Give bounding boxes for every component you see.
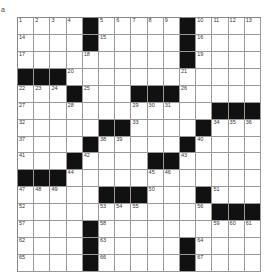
grid-cell[interactable] bbox=[212, 238, 228, 255]
grid-cell[interactable]: 8 bbox=[148, 18, 164, 35]
grid-cell[interactable] bbox=[115, 170, 131, 187]
grid-cell[interactable] bbox=[115, 35, 131, 52]
grid-cell[interactable] bbox=[34, 120, 50, 137]
grid-cell[interactable]: 7 bbox=[131, 18, 147, 35]
grid-cell[interactable] bbox=[229, 35, 245, 52]
grid-cell[interactable]: 61 bbox=[245, 221, 261, 238]
grid-cell[interactable] bbox=[245, 170, 261, 187]
grid-cell[interactable]: 67 bbox=[196, 255, 212, 272]
grid-cell[interactable] bbox=[99, 86, 115, 103]
grid-cell[interactable] bbox=[164, 255, 180, 272]
grid-cell[interactable] bbox=[180, 221, 196, 238]
grid-cell[interactable] bbox=[131, 255, 147, 272]
grid-cell[interactable]: 27 bbox=[18, 103, 34, 120]
grid-cell[interactable]: 2 bbox=[34, 18, 50, 35]
grid-cell[interactable]: 56 bbox=[196, 204, 212, 221]
grid-cell[interactable]: 45 bbox=[148, 170, 164, 187]
grid-cell[interactable] bbox=[67, 52, 83, 69]
grid-cell[interactable] bbox=[67, 204, 83, 221]
grid-cell[interactable] bbox=[148, 238, 164, 255]
grid-cell[interactable] bbox=[83, 103, 99, 120]
grid-cell[interactable] bbox=[99, 103, 115, 120]
grid-cell[interactable] bbox=[229, 238, 245, 255]
grid-cell[interactable]: 63 bbox=[99, 238, 115, 255]
grid-cell[interactable] bbox=[115, 153, 131, 170]
grid-cell[interactable] bbox=[131, 153, 147, 170]
grid-cell[interactable] bbox=[115, 86, 131, 103]
grid-cell[interactable]: 58 bbox=[99, 221, 115, 238]
grid-cell[interactable] bbox=[67, 137, 83, 154]
grid-cell[interactable] bbox=[164, 120, 180, 137]
grid-cell[interactable]: 21 bbox=[180, 69, 196, 86]
grid-cell[interactable] bbox=[180, 120, 196, 137]
grid-cell[interactable] bbox=[148, 52, 164, 69]
grid-cell[interactable] bbox=[67, 120, 83, 137]
grid-cell[interactable]: 54 bbox=[115, 204, 131, 221]
grid-cell[interactable]: 38 bbox=[99, 137, 115, 154]
grid-cell[interactable] bbox=[196, 69, 212, 86]
grid-cell[interactable] bbox=[67, 238, 83, 255]
grid-cell[interactable]: 10 bbox=[196, 18, 212, 35]
grid-cell[interactable] bbox=[131, 238, 147, 255]
grid-cell[interactable] bbox=[164, 221, 180, 238]
grid-cell[interactable]: 48 bbox=[34, 187, 50, 204]
grid-cell[interactable] bbox=[50, 153, 66, 170]
grid-cell[interactable] bbox=[34, 35, 50, 52]
grid-cell[interactable] bbox=[148, 35, 164, 52]
grid-cell[interactable] bbox=[196, 153, 212, 170]
grid-cell[interactable]: 50 bbox=[148, 187, 164, 204]
grid-cell[interactable] bbox=[229, 170, 245, 187]
grid-cell[interactable]: 37 bbox=[18, 137, 34, 154]
grid-cell[interactable] bbox=[67, 187, 83, 204]
grid-cell[interactable]: 6 bbox=[115, 18, 131, 35]
grid-cell[interactable]: 4 bbox=[67, 18, 83, 35]
grid-cell[interactable] bbox=[148, 204, 164, 221]
grid-cell[interactable] bbox=[229, 52, 245, 69]
grid-cell[interactable]: 31 bbox=[164, 103, 180, 120]
grid-cell[interactable]: 20 bbox=[67, 69, 83, 86]
grid-cell[interactable]: 29 bbox=[131, 103, 147, 120]
grid-cell[interactable] bbox=[148, 120, 164, 137]
grid-cell[interactable]: 53 bbox=[99, 204, 115, 221]
grid-cell[interactable] bbox=[115, 69, 131, 86]
grid-cell[interactable]: 60 bbox=[229, 221, 245, 238]
grid-cell[interactable] bbox=[50, 238, 66, 255]
grid-cell[interactable] bbox=[229, 69, 245, 86]
grid-cell[interactable]: 65 bbox=[18, 255, 34, 272]
grid-cell[interactable] bbox=[50, 221, 66, 238]
grid-cell[interactable]: 59 bbox=[212, 221, 228, 238]
grid-cell[interactable] bbox=[67, 221, 83, 238]
grid-cell[interactable]: 3 bbox=[50, 18, 66, 35]
grid-cell[interactable] bbox=[212, 153, 228, 170]
grid-cell[interactable] bbox=[148, 221, 164, 238]
grid-cell[interactable]: 19 bbox=[196, 52, 212, 69]
grid-cell[interactable] bbox=[212, 137, 228, 154]
grid-cell[interactable]: 18 bbox=[83, 52, 99, 69]
grid-cell[interactable]: 9 bbox=[164, 18, 180, 35]
grid-cell[interactable] bbox=[164, 187, 180, 204]
grid-cell[interactable] bbox=[131, 137, 147, 154]
grid-cell[interactable]: 12 bbox=[229, 18, 245, 35]
grid-cell[interactable] bbox=[245, 52, 261, 69]
grid-cell[interactable]: 47 bbox=[18, 187, 34, 204]
grid-cell[interactable] bbox=[148, 255, 164, 272]
grid-cell[interactable] bbox=[34, 204, 50, 221]
grid-cell[interactable]: 55 bbox=[131, 204, 147, 221]
grid-cell[interactable] bbox=[50, 137, 66, 154]
grid-cell[interactable]: 42 bbox=[83, 153, 99, 170]
grid-cell[interactable]: 25 bbox=[83, 86, 99, 103]
grid-cell[interactable] bbox=[229, 137, 245, 154]
grid-cell[interactable]: 66 bbox=[99, 255, 115, 272]
grid-cell[interactable] bbox=[245, 69, 261, 86]
grid-cell[interactable] bbox=[50, 35, 66, 52]
grid-cell[interactable] bbox=[148, 69, 164, 86]
grid-cell[interactable] bbox=[196, 221, 212, 238]
grid-cell[interactable] bbox=[212, 69, 228, 86]
grid-cell[interactable]: 34 bbox=[212, 120, 228, 137]
grid-cell[interactable] bbox=[34, 137, 50, 154]
grid-cell[interactable] bbox=[83, 187, 99, 204]
grid-cell[interactable] bbox=[229, 86, 245, 103]
grid-cell[interactable]: 57 bbox=[18, 221, 34, 238]
grid-cell[interactable]: 30 bbox=[148, 103, 164, 120]
grid-cell[interactable] bbox=[50, 255, 66, 272]
